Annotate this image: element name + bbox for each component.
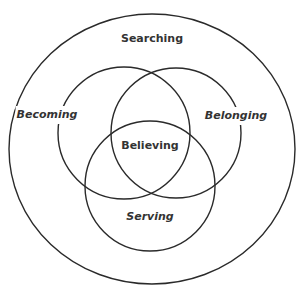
label-serving: Serving: [126, 210, 173, 224]
venn-diagram: Searching Becoming Belonging Believing S…: [0, 0, 300, 290]
circle-belonging: [111, 68, 241, 198]
label-becoming: Becoming: [16, 106, 79, 124]
label-belonging: Belonging: [204, 107, 268, 125]
circle-becoming: [58, 67, 190, 199]
label-believing: Believing: [121, 139, 179, 153]
label-searching: Searching: [121, 32, 183, 46]
